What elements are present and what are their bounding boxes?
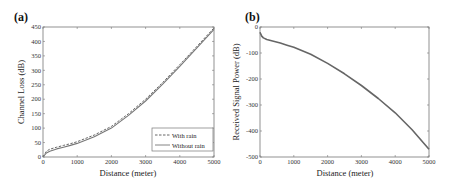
- y-tick-label: 300: [31, 67, 41, 74]
- y-tick-label: -500: [246, 153, 258, 160]
- y-tick-label: 450: [31, 23, 41, 30]
- x-tick-label: 2000: [321, 158, 334, 165]
- x-axis-title-a: Distance (meter): [100, 168, 157, 178]
- x-tick-label: 1000: [287, 158, 300, 165]
- y-tick-label: 150: [31, 110, 41, 117]
- chart-a: (a) 010002000300040005000050100150200250…: [14, 10, 221, 178]
- x-tick-label: 5000: [423, 158, 436, 165]
- y-tick-label: -300: [246, 101, 258, 108]
- y-axis-title-a: Channel Loss (dB): [16, 60, 26, 124]
- figure: (a) 010002000300040005000050100150200250…: [0, 0, 450, 185]
- x-tick-label: 3000: [139, 158, 152, 165]
- y-tick-label: 350: [31, 52, 41, 59]
- x-tick-label: 0: [41, 158, 44, 165]
- y-axis-title-b: Received Signal Power (dB): [231, 43, 241, 140]
- panel-label-b: (b): [245, 10, 260, 24]
- series-line: [260, 32, 429, 149]
- y-tick-label: 400: [31, 38, 41, 45]
- chart-b: (b) 0100020003000400050000-100-200-300-4…: [231, 10, 436, 178]
- y-tick-label: -200: [246, 75, 258, 82]
- legend-a: With rain Without rain: [152, 128, 213, 151]
- y-tick-label: 250: [31, 81, 41, 88]
- y-tick-label: 50: [35, 139, 42, 146]
- axis-ticks-b: 0100020003000400050000-100-200-300-400-5…: [246, 23, 435, 165]
- y-tick-label: 0: [38, 153, 41, 160]
- x-tick-label: 2000: [105, 158, 118, 165]
- x-axis-title-b: Distance (meter): [317, 168, 374, 178]
- x-tick-label: 0: [258, 158, 261, 165]
- x-tick-label: 4000: [173, 158, 186, 165]
- x-tick-label: 4000: [389, 158, 402, 165]
- y-tick-label: 200: [31, 95, 41, 102]
- y-tick-label: -400: [246, 127, 258, 134]
- x-tick-label: 3000: [355, 158, 368, 165]
- x-tick-label: 5000: [208, 158, 221, 165]
- plot-area-b: [260, 27, 429, 157]
- panel-label-a: (a): [14, 10, 28, 24]
- y-tick-label: -100: [246, 49, 258, 56]
- data-lines-b: [260, 32, 429, 149]
- x-tick-label: 1000: [71, 158, 84, 165]
- y-tick-label: 100: [31, 124, 41, 131]
- y-tick-label: 0: [255, 23, 258, 30]
- legend-label-with-rain: With rain: [172, 132, 197, 139]
- legend-label-without-rain: Without rain: [172, 142, 206, 149]
